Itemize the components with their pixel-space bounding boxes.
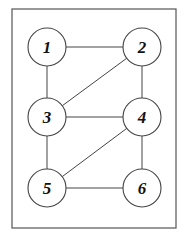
- node-5: 5: [28, 169, 66, 207]
- node-label: 4: [137, 108, 147, 127]
- node-label: 1: [43, 38, 52, 57]
- edge-4-5: [62, 128, 127, 176]
- node-1: 1: [28, 28, 66, 66]
- edge-2-3: [62, 58, 126, 105]
- node-label: 2: [137, 38, 147, 57]
- node-label: 3: [42, 108, 52, 127]
- node-label: 6: [138, 179, 147, 198]
- node-4: 4: [123, 98, 161, 136]
- node-label: 5: [43, 179, 52, 198]
- node-2: 2: [123, 28, 161, 66]
- node-3: 3: [28, 98, 66, 136]
- node-6: 6: [123, 169, 161, 207]
- graph-diagram: 123456: [0, 0, 184, 239]
